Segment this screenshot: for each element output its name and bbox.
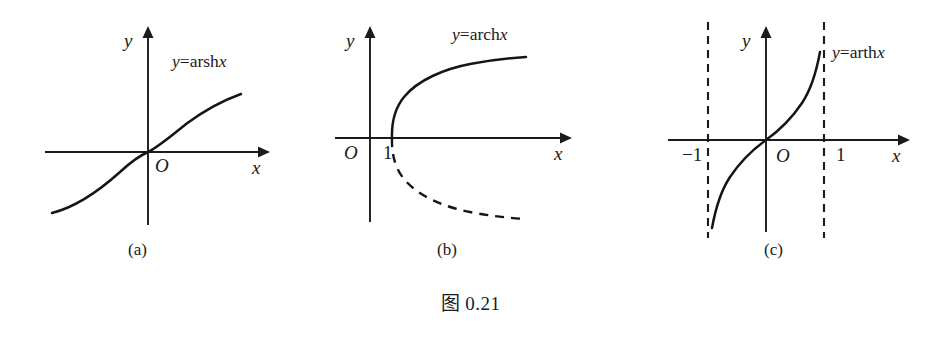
panel-c-tick-label-minus-1: −1 [682, 144, 702, 165]
figure-container: y x O y=arshx y x O 1 y=archx [0, 0, 941, 340]
panel-c-origin-label: O [776, 145, 790, 166]
panel-a-y-axis-arrow [143, 26, 154, 38]
panel-c-curve-label-fn: arth [850, 42, 877, 62]
panel-c-x-axis-arrow [898, 135, 910, 146]
panel-c-curve-label-eq: = [840, 42, 850, 62]
panel-a-curve-label-arg: x [218, 51, 227, 71]
panel-c-y-axis-label: y [740, 30, 751, 51]
panel-a-arsinh-plot: y x O y=arshx [0, 0, 320, 280]
panel-b-y-axis-arrow [365, 26, 376, 38]
subcaption-a: (a) [128, 240, 147, 260]
panel-c-curve-label-lhs: y [830, 42, 840, 62]
panel-c-curve-label: y=arthx [830, 42, 885, 62]
subcaption-c: (c) [764, 240, 783, 260]
panel-b-curve-arcosh-lower [392, 138, 526, 219]
panel-b-curve-label: y=archx [450, 24, 508, 44]
panel-a-x-axis-label: x [251, 157, 261, 178]
panel-a-curve-label: y=arshx [170, 51, 227, 71]
panel-c-tick-label-1: 1 [836, 144, 846, 165]
figure-caption: 图 0.21 [0, 288, 941, 315]
panel-b-x-axis-label: x [553, 143, 563, 164]
panel-b-arcosh-plot: y x O 1 y=archx [320, 0, 650, 280]
panel-a-x-axis-arrow [258, 147, 270, 158]
panel-b-curve-arcosh-upper [392, 57, 526, 138]
panel-a-curve-label-fn: arsh [190, 51, 219, 71]
panel-a-origin-label: O [155, 155, 169, 176]
panel-a-y-axis-label: y [122, 30, 133, 51]
panel-b-origin-label: O [344, 142, 358, 163]
subcaption-b: (b) [437, 240, 457, 260]
panel-b-curve-label-arg: x [499, 24, 508, 44]
panel-a-curve-label-lhs: y [170, 51, 180, 71]
panel-b-curve-label-fn: arch [470, 24, 500, 44]
panel-a-curve-label-eq: = [180, 51, 190, 71]
panel-b-curve-label-eq: = [460, 24, 470, 44]
panel-a-curve-arsinh [52, 94, 241, 213]
panel-c-curve-label-arg: x [876, 42, 885, 62]
panel-b-tick-label-1: 1 [383, 142, 393, 163]
panel-c-artanh-plot: y x −1 O 1 y=arthx [650, 0, 941, 280]
panel-b-curve-label-lhs: y [450, 24, 460, 44]
panel-c-y-axis-arrow [761, 26, 772, 38]
panel-c-x-axis-label: x [891, 145, 901, 166]
panel-b-x-axis-arrow [560, 133, 572, 144]
panel-b-y-axis-label: y [344, 30, 355, 51]
